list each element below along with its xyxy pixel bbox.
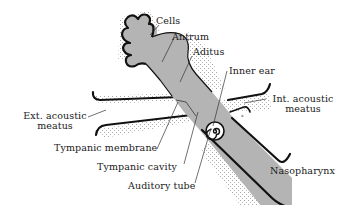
ear-anatomy-diagram: a Cells Antrum Aditus Inner ear Int. aco… — [0, 0, 345, 205]
label-aditus: Aditus — [193, 47, 224, 57]
label-ext-acoustic-meatus-line2: meatus — [20, 121, 90, 131]
inner-ear-cochlea — [206, 122, 224, 140]
label-int-acoustic-meatus: Int. acoustic meatus — [268, 94, 338, 114]
label-inner-ear: Inner ear — [229, 66, 275, 76]
label-int-acoustic-meatus-line2: meatus — [268, 104, 338, 114]
label-antrum: Antrum — [172, 32, 209, 42]
label-cells: Cells — [156, 16, 180, 26]
label-auditory-tube: Auditory tube — [128, 181, 196, 191]
label-nasopharynx: Nasopharynx — [270, 166, 335, 176]
label-tympanic-cavity: Tympanic cavity — [97, 162, 177, 172]
svg-text:a: a — [241, 113, 244, 118]
label-tympanic-membrane: Tympanic membrane — [54, 143, 157, 153]
label-ext-acoustic-meatus: Ext. acoustic meatus — [20, 111, 90, 131]
